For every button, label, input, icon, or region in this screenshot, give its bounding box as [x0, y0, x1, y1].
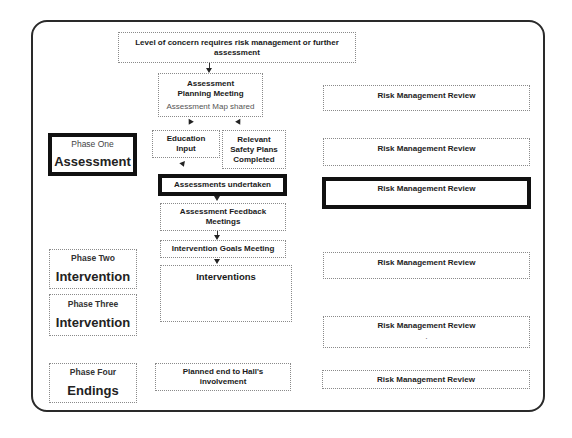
phase-one-box: Phase One Assessment [48, 133, 137, 176]
phase-three-label: Phase Three [68, 299, 119, 310]
phase-four-label: Phase Four [70, 367, 116, 378]
phase-one-title: Assessment [54, 154, 131, 170]
education-input-box: Education Input [152, 130, 220, 158]
risk-review-box-6: Risk Management Review [322, 370, 530, 389]
risk-review-label: Risk Management Review [378, 91, 476, 101]
planning-meeting-subtitle: Assessment Map shared [166, 102, 254, 112]
risk-review-label: Risk Management Review [378, 184, 476, 194]
risk-review-label: Risk Management Review [378, 258, 476, 268]
risk-review-box-3: Risk Management Review [322, 177, 531, 209]
phase-four-title: Endings [67, 383, 118, 399]
risk-review-box-1: Risk Management Review [323, 85, 530, 111]
risk-review-box-4: Risk Management Review [323, 252, 530, 279]
phase-three-title: Intervention [56, 315, 130, 331]
interventions-text: Interventions [196, 271, 256, 283]
phase-three-box: Phase Three Intervention [49, 294, 137, 336]
assessments-undertaken-box: Assessments undertaken [158, 174, 287, 196]
assessments-undertaken-text: Assessments undertaken [174, 180, 271, 190]
planned-end-box: Planned end to Hall's involvement [155, 363, 291, 391]
planning-meeting-title: Assessment Planning Meeting [171, 79, 251, 99]
risk-review-box-2: Risk Management Review [323, 138, 530, 166]
arrow-down-icon [214, 259, 220, 264]
phase-two-box: Phase Two Intervention [49, 249, 137, 289]
risk-review-box-5: Risk Management Review . [323, 316, 530, 348]
risk-review-label: Risk Management Review [377, 375, 475, 385]
phase-one-label: Phase One [71, 139, 114, 150]
feedback-meetings-text: Assessment Feedback Meetings [173, 207, 273, 227]
phase-two-label: Phase Two [71, 253, 115, 264]
phase-two-title: Intervention [56, 269, 130, 285]
safety-plans-box: Relevant Safety Plans Completed [222, 130, 286, 169]
concern-level-text: Level of concern requires risk managemen… [125, 38, 349, 58]
phase-four-box: Phase Four Endings [49, 363, 137, 403]
interventions-box: Interventions [160, 265, 292, 322]
safety-plans-text: Relevant Safety Plans Completed [226, 135, 282, 165]
diagram-frame [31, 20, 545, 412]
education-input-text: Education Input [161, 134, 211, 154]
risk-review-label: Risk Management Review [378, 321, 476, 331]
feedback-meetings-box: Assessment Feedback Meetings [160, 203, 286, 231]
planning-meeting-box: Assessment Planning Meeting Assessment M… [158, 73, 263, 117]
planned-end-text: Planned end to Hall's involvement [173, 367, 273, 387]
goals-meeting-text: Intervention Goals Meeting [172, 244, 275, 254]
risk-review-label: Risk Management Review [378, 144, 476, 154]
goals-meeting-box: Intervention Goals Meeting [160, 240, 286, 258]
risk-review-note: . [426, 333, 428, 342]
concern-level-box: Level of concern requires risk managemen… [118, 32, 356, 63]
arrow-down-icon [214, 196, 220, 201]
